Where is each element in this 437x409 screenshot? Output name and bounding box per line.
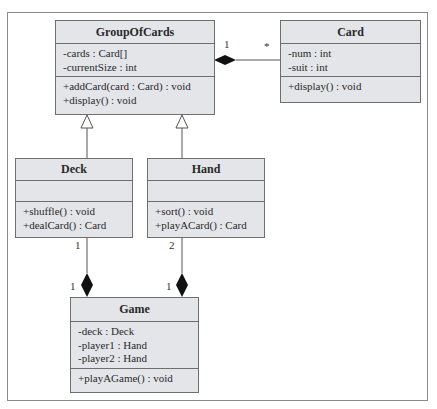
class-name: Deck bbox=[16, 159, 132, 181]
attribute: -player1 : Hand bbox=[78, 339, 198, 353]
method: +display() : void bbox=[288, 80, 420, 94]
method: +playAGame() : void bbox=[78, 372, 198, 386]
class-methods: +addCard(card : Card) : void +display() … bbox=[56, 77, 214, 107]
method: +shuffle() : void bbox=[23, 205, 132, 219]
attribute: -num : int bbox=[288, 47, 420, 61]
class-hand[interactable]: Hand +sort() : void +playACard() : Card bbox=[147, 158, 265, 238]
class-name: Game bbox=[71, 298, 198, 322]
class-attributes: -cards : Card[] -currentSize : int bbox=[56, 44, 214, 77]
class-game[interactable]: Game -deck : Deck -player1 : Hand -playe… bbox=[70, 297, 199, 393]
class-name: Card bbox=[281, 21, 420, 44]
composition-diamond-icon bbox=[176, 273, 188, 297]
multiplicity-label: 1 bbox=[166, 280, 172, 292]
attribute: -player2 : Hand bbox=[78, 352, 198, 366]
multiplicity-label: 1 bbox=[224, 38, 230, 50]
class-attributes: -num : int -suit : int bbox=[281, 44, 420, 77]
class-methods: +display() : void bbox=[281, 77, 420, 94]
method: +addCard(card : Card) : void bbox=[63, 80, 214, 94]
class-groupofcards[interactable]: GroupOfCards -cards : Card[] -currentSiz… bbox=[55, 20, 215, 115]
class-attributes: -deck : Deck -player1 : Hand -player2 : … bbox=[71, 322, 198, 369]
attribute: -suit : int bbox=[288, 61, 420, 75]
generalization-triangle-icon bbox=[176, 115, 188, 128]
class-attributes bbox=[16, 181, 132, 202]
class-card[interactable]: Card -num : int -suit : int +display() :… bbox=[280, 20, 421, 103]
composition-diamond-icon bbox=[214, 55, 236, 65]
method: +display() : void bbox=[63, 94, 214, 108]
method: +playACard() : Card bbox=[155, 219, 264, 233]
method: +dealCard() : Card bbox=[23, 219, 132, 233]
multiplicity-label: * bbox=[264, 40, 270, 52]
attribute: -currentSize : int bbox=[63, 61, 214, 75]
generalization-triangle-icon bbox=[81, 115, 93, 128]
class-attributes bbox=[148, 181, 264, 202]
method: +sort() : void bbox=[155, 205, 264, 219]
composition-diamond-icon bbox=[81, 273, 93, 297]
class-methods: +sort() : void +playACard() : Card bbox=[148, 202, 264, 232]
class-deck[interactable]: Deck +shuffle() : void +dealCard() : Car… bbox=[15, 158, 133, 238]
attribute: -deck : Deck bbox=[78, 325, 198, 339]
class-name: Hand bbox=[148, 159, 264, 181]
class-methods: +shuffle() : void +dealCard() : Card bbox=[16, 202, 132, 232]
multiplicity-label: 1 bbox=[75, 239, 81, 251]
class-name: GroupOfCards bbox=[56, 21, 214, 44]
multiplicity-label: 1 bbox=[70, 280, 76, 292]
multiplicity-label: 2 bbox=[169, 239, 175, 251]
class-methods: +playAGame() : void bbox=[71, 369, 198, 386]
attribute: -cards : Card[] bbox=[63, 47, 214, 61]
